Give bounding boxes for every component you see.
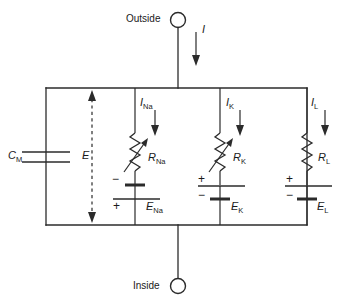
circuit-diagram-figure: Outside Inside I CM E INa RNa − + ENa IK… [0,0,338,307]
leak-emf-subscript: L [324,206,328,215]
potassium-battery-bottom-sign: − [198,189,205,201]
potassium-resistance-symbol: R [233,151,241,163]
potassium-emf-label: EK [231,201,243,212]
leak-resistance-symbol: R [318,151,326,163]
sodium-battery-top-sign: − [112,173,119,185]
total-current-arrowhead [192,55,200,66]
total-current-arrow [192,32,200,66]
sodium-resistance-symbol: R [148,151,156,163]
leak-battery-top-sign: + [286,173,293,185]
membrane-capacitance-symbol: C [8,149,16,161]
leak-current-arrow [321,110,329,136]
potassium-current-arrow [236,110,244,136]
outside-label: Outside [126,14,160,24]
circuit-schematic-canvas [0,0,338,307]
inside-terminal-circle [171,279,186,294]
potassium-current-arrowhead [236,125,244,136]
potassium-current-label: IK [226,97,234,108]
leak-emf-label: EL [317,201,329,212]
membrane-capacitance-label: CM [8,150,22,161]
leak-resistance-label: RL [318,152,330,163]
potassium-current-subscript: K [229,102,234,111]
outside-terminal-group [171,13,186,89]
sodium-resistor-variable-arrow [124,138,148,172]
sodium-resistance-label: RNa [148,152,166,163]
leak-resistance-subscript: L [326,157,330,166]
leak-current-label: IL [311,97,318,108]
sodium-current-subscript: Na [143,102,153,111]
inside-terminal-group [171,225,186,294]
potassium-resistance-subscript: K [241,157,246,166]
outside-terminal-circle [171,13,186,28]
potassium-resistor-variable-arrow [209,138,233,172]
leak-current-arrowhead [321,125,329,136]
sodium-current-arrowhead [151,125,159,136]
membrane-potential-symbol: E [82,149,89,161]
membrane-capacitance-subscript: M [16,155,22,164]
sodium-current-arrow [151,110,159,136]
potassium-emf-subscript: K [238,206,243,215]
inside-label: Inside [133,281,160,291]
membrane-potential-label: E [82,150,89,161]
potassium-battery-top-sign: + [198,173,205,185]
sodium-battery-bottom-sign: + [113,200,120,212]
potential-arrowhead-bottom [88,212,96,223]
sodium-emf-subscript: Na [153,206,163,215]
total-current-label: I [202,24,205,35]
sodium-emf-label: ENa [146,201,163,212]
leak-current-subscript: L [314,102,318,111]
potassium-resistance-label: RK [233,152,246,163]
sodium-resistance-subscript: Na [156,157,166,166]
sodium-current-label: INa [140,97,153,108]
leak-battery-bottom-sign: − [286,189,293,201]
total-current-symbol: I [202,23,205,35]
